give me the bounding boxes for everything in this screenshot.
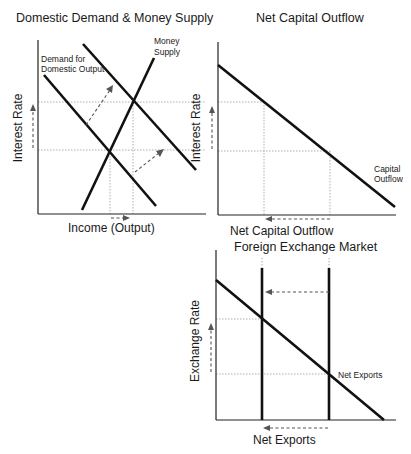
demand-curve-original	[44, 75, 156, 206]
capital-outflow-label: Capital	[374, 164, 401, 174]
arrow-left-icon	[265, 289, 272, 295]
panel-title: Net Capital Outflow	[256, 11, 365, 25]
arrow-up-icon	[30, 104, 36, 111]
y-axis-label: Interest Rate	[189, 93, 203, 162]
x-axis-label: Net Capital Outflow	[230, 224, 334, 238]
arrow-up-icon	[209, 106, 215, 113]
y-axis-label: Exchange Rate	[188, 300, 202, 382]
arrow-left-icon	[265, 216, 272, 222]
net-exports-curve-label: Net Exports	[338, 370, 382, 380]
x-axis-label: Income (Output)	[68, 221, 155, 235]
arrowhead-icon	[106, 85, 113, 93]
demand-curve-shifted	[83, 44, 196, 170]
arrowhead-icon	[156, 149, 164, 157]
demand-curve-label: Domestic Output	[41, 64, 105, 74]
arrow-left-icon	[263, 425, 270, 431]
y-axis-label: Interest Rate	[11, 93, 25, 162]
x-axis-label: Net Exports	[253, 433, 316, 447]
demand-shift-arrow-upper	[86, 90, 110, 125]
money-supply-label: Supply	[154, 47, 181, 57]
capital-outflow-curve	[218, 65, 395, 207]
panel-net-capital-outflow: Net Capital Outflow Capital Outflow Net …	[189, 11, 404, 238]
net-exports-curve	[216, 280, 384, 420]
demand-shift-arrow-lower	[135, 153, 159, 172]
economics-diagram: Domestic Demand & Money Supply Demand fo…	[0, 0, 411, 454]
arrow-up-icon	[208, 323, 214, 330]
panel-foreign-exchange-market: Foreign Exchange Market Net Exports Net …	[188, 240, 396, 447]
capital-outflow-label: Outflow	[374, 174, 404, 184]
money-supply-label: Money	[154, 36, 180, 46]
panel-title: Foreign Exchange Market	[234, 240, 378, 254]
demand-curve-label: Demand for	[41, 54, 86, 64]
panel-domestic-demand-money-supply: Domestic Demand & Money Supply Demand fo…	[11, 11, 214, 235]
panel-title: Domestic Demand & Money Supply	[16, 11, 214, 25]
